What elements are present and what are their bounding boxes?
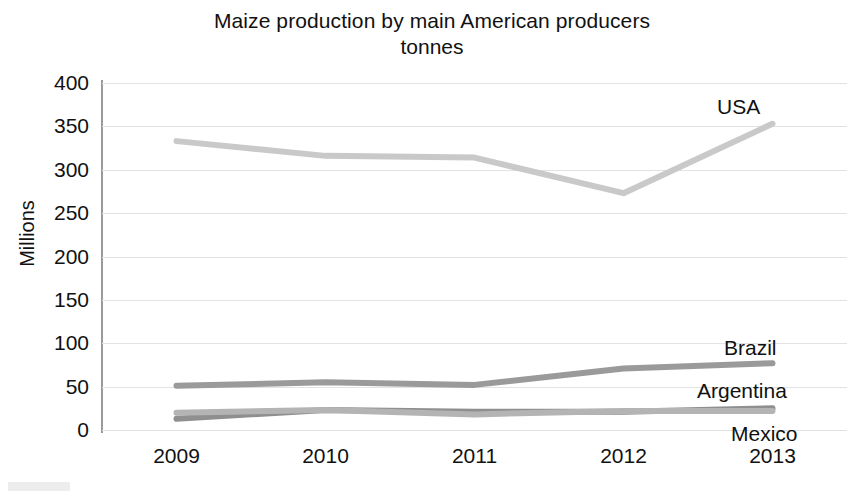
- page-footer-fragment: [8, 482, 70, 491]
- series-line-brazil: [177, 363, 773, 386]
- series-label-brazil: Brazil: [724, 337, 777, 359]
- series-label-usa: USA: [717, 96, 760, 118]
- series-label-argentina: Argentina: [697, 380, 787, 402]
- chart-container: Maize production by main American produc…: [0, 0, 864, 498]
- series-line-usa: [177, 124, 773, 193]
- series-label-mexico: Mexico: [731, 423, 798, 445]
